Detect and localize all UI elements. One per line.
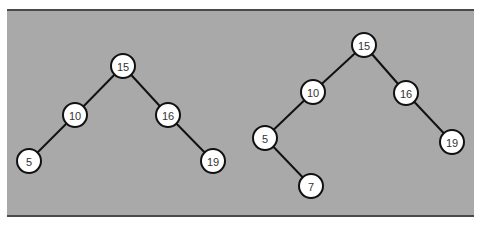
node-label: 10 bbox=[69, 110, 81, 122]
node-label: 5 bbox=[26, 156, 32, 168]
tree-node-16: 16 bbox=[156, 103, 180, 127]
node-label: 19 bbox=[446, 137, 458, 149]
tree-node-19: 19 bbox=[201, 149, 225, 173]
node-label: 10 bbox=[307, 87, 319, 99]
tree-node-5: 5 bbox=[17, 149, 41, 173]
left-tree: 151016519 bbox=[17, 54, 225, 173]
tree-node-5: 5 bbox=[253, 126, 277, 150]
right-tree-edges bbox=[265, 45, 452, 186]
node-label: 15 bbox=[358, 40, 370, 52]
tree-node-7: 7 bbox=[299, 174, 323, 198]
node-label: 15 bbox=[117, 61, 129, 73]
node-label: 16 bbox=[400, 88, 412, 100]
tree-node-16: 16 bbox=[394, 81, 418, 105]
right-tree: 1510165197 bbox=[253, 33, 464, 198]
tree-node-19: 19 bbox=[440, 130, 464, 154]
binary-search-trees: 1510165191510165197 bbox=[0, 0, 482, 225]
node-label: 16 bbox=[162, 110, 174, 122]
tree-node-10: 10 bbox=[301, 80, 325, 104]
edges-layer bbox=[29, 45, 452, 186]
node-label: 5 bbox=[262, 133, 268, 145]
tree-node-15: 15 bbox=[352, 33, 376, 57]
left-tree-edges bbox=[29, 66, 213, 161]
node-label: 19 bbox=[207, 156, 219, 168]
tree-node-10: 10 bbox=[63, 103, 87, 127]
tree-node-15: 15 bbox=[111, 54, 135, 78]
nodes-layer: 1510165191510165197 bbox=[17, 33, 464, 198]
node-label: 7 bbox=[308, 181, 314, 193]
